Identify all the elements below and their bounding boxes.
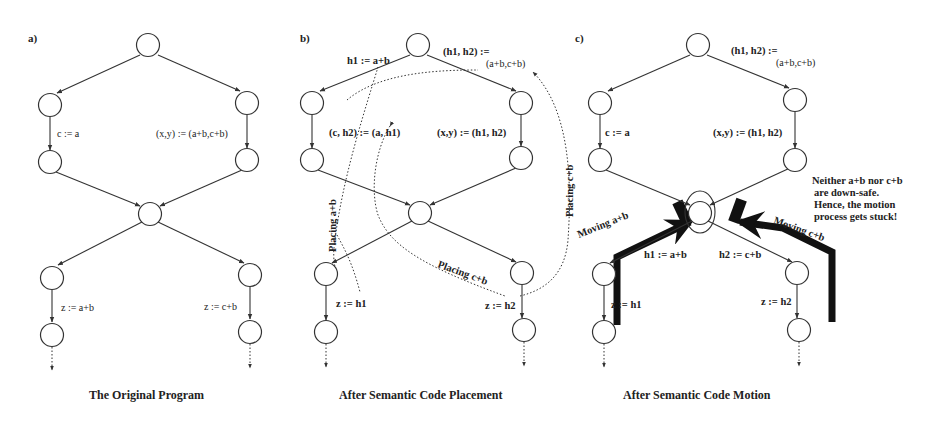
edge [332,221,412,263]
stmt-label: (a+b,c+b) [776,57,815,69]
panel-b: b) h1 := a+b (h1, h2) := (a+b,c+b [300,32,575,402]
panel-c: c) (h1, h2) := (a+b,c+b) c : [575,32,903,402]
node [239,264,262,287]
panel-b-tag: b) [300,32,310,45]
node [39,94,62,117]
node [41,267,64,290]
node [409,202,432,225]
node [689,202,712,225]
edge [56,172,140,206]
node [593,263,616,286]
panel-a-tag: a) [28,32,38,45]
node [39,151,62,174]
node [788,319,811,342]
stmt-label: z := h1 [336,298,366,309]
note-line: are down-safe. [814,187,880,198]
node [593,321,616,344]
edge [608,55,690,91]
stmt-label: z := c+b [204,301,237,312]
node [236,149,259,172]
stmt-label: h1 := a+b [644,249,687,260]
node [137,34,160,57]
node [786,262,809,285]
node [301,92,324,115]
stmt-label: c := a [57,128,80,139]
edge [428,221,516,262]
stmt-label: z := h1 [611,299,641,310]
node [511,262,534,285]
edge [710,168,790,205]
panel-c-tag: c) [575,32,584,45]
node [784,89,807,112]
node [687,34,710,57]
panel-a: a) c := a (x,y) := (a+b,c+b) z := a+b z … [28,32,262,402]
node [139,203,162,226]
panel-caption: The Original Program [89,388,204,402]
placing-label: Placing a+b [327,199,338,252]
stmt-label: (x,y) := (h1, h2) [713,127,783,139]
stmt-label: z := a+b [61,302,94,313]
stmt-label: h2 := c+b [719,249,761,260]
stmt-label: z := h2 [485,300,515,311]
moving-label: Moving a+b [576,209,630,240]
stmt-label: (c, h2) := (a, h1) [329,127,401,139]
placing-c+b-path [347,70,478,100]
node [239,321,262,344]
stmt-label: (h1, h2) := [443,46,490,58]
edge [158,222,244,263]
node [407,34,430,57]
placing-label: Placing c+b [436,259,489,287]
edge [430,168,516,205]
node [315,321,338,344]
stmt-label: c := a [605,127,630,138]
placing-a+b-path [337,235,360,292]
edge [57,55,140,93]
note-line: Neither a+b nor c+b [812,175,903,186]
edge [160,170,242,206]
stmt-label: h1 := a+b [347,55,390,66]
node [301,149,324,172]
stmt-label: z := h2 [761,296,791,307]
node [589,149,612,172]
placing-label: Placing c+b [564,164,575,217]
stmt-label: (h1, h2) := [731,45,778,57]
node [510,92,533,115]
node [236,92,259,115]
node [513,319,536,342]
note-line: Hence, the motion [814,199,896,210]
placing-c+b-path [374,126,505,296]
figure-canvas: a) c := a (x,y) := (a+b,c+b) z := a+b z … [0,0,939,424]
stmt-label: (a+b,c+b) [486,58,525,70]
node [41,324,64,347]
panel-caption: After Semantic Code Motion [623,388,771,402]
stmt-label: (x,y) := (a+b,c+b) [156,128,228,140]
panel-caption: After Semantic Code Placement [339,388,502,402]
edge [158,55,240,91]
edge [606,170,690,205]
note-line: process gets stuck! [814,211,897,222]
placing-a+b-path [334,67,378,270]
stmt-label: (x,y) := (h1, h2) [437,127,507,139]
node [784,149,807,172]
node [315,263,338,286]
edge [58,222,142,265]
node [589,92,612,115]
node [510,147,533,170]
